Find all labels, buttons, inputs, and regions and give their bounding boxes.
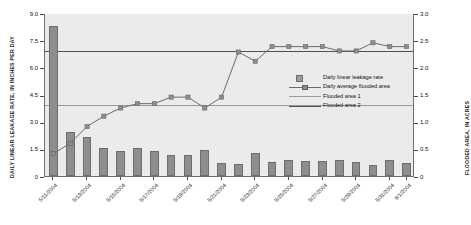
x-axis-tick-label: 5/27/2004 [298, 182, 328, 212]
x-axis-tick [389, 177, 390, 180]
left-axis-tick-label: 1.5 [16, 146, 38, 152]
x-axis-tick-label: 5/25/2004 [264, 182, 294, 212]
chart-figure: DAILY LINEAR LEAKAGE RATE, IN INCHES PER… [0, 0, 471, 225]
legend-item-leakage-rate: Daily linear leakage rate [287, 73, 412, 83]
x-axis-tick [120, 177, 121, 180]
x-axis-tick [288, 177, 289, 180]
legend-key-line-marker [287, 83, 323, 92]
data-point-marker [152, 102, 156, 106]
x-axis-tick [254, 177, 255, 180]
left-axis-tick-label: 3.0 [16, 119, 38, 125]
x-axis-tick-label: 5/13/2004 [63, 182, 93, 212]
left-axis-tick [40, 150, 44, 151]
legend-item-flooded-area-1: Flooded area 1 [287, 92, 412, 102]
x-axis-tick [221, 177, 222, 180]
left-axis-tick [40, 177, 44, 178]
legend-label-flooded-area: Daily average flooded area [323, 84, 390, 90]
chart-legend: Daily linear leakage rate Daily average … [287, 73, 412, 111]
x-axis-tick-label: 5/21/2004 [197, 182, 227, 212]
left-axis-tick [40, 96, 44, 97]
legend-label-flooded-area-2: Flooded area 2 [323, 103, 361, 109]
data-point-marker [320, 45, 324, 49]
x-axis-tick-label: 5/17/2004 [130, 182, 160, 212]
right-axis-tick [414, 68, 418, 69]
right-axis-tick-label: 2.0 [420, 65, 442, 71]
data-point-marker [287, 45, 291, 49]
left-axis-tick [40, 41, 44, 42]
left-axis-tick [40, 68, 44, 69]
x-axis-tick-label: 5/11/2004 [29, 182, 59, 212]
data-point-marker [388, 45, 392, 49]
legend-key-ref1 [287, 92, 323, 101]
data-point-marker [219, 95, 223, 99]
right-axis-tick [414, 177, 418, 178]
data-point-marker [85, 124, 89, 128]
x-axis-tick-label: 5/29/2004 [332, 182, 362, 212]
legend-label-flooded-area-1: Flooded area 1 [323, 94, 361, 100]
left-axis-tick-label: 9.0 [16, 11, 38, 17]
bar-swatch-icon [296, 75, 303, 82]
data-point-marker [304, 45, 308, 49]
right-axis-tick-label: 1.0 [420, 119, 442, 125]
right-axis-tick [414, 96, 418, 97]
left-axis-tick [40, 14, 44, 15]
data-point-marker [102, 114, 106, 118]
x-axis-tick [187, 177, 188, 180]
data-point-marker [51, 152, 55, 156]
x-axis-tick-label: 5/19/2004 [163, 182, 193, 212]
data-point-marker [186, 95, 190, 99]
legend-label-leakage-rate: Daily linear leakage rate [323, 75, 383, 81]
plot-inner: Daily linear leakage rate Daily average … [45, 14, 413, 176]
plot-area: Daily linear leakage rate Daily average … [44, 14, 414, 177]
legend-item-flooded-area: Daily average flooded area [287, 83, 412, 93]
reference-line-1-icon [289, 96, 321, 97]
x-axis-tick-label: 5/23/2004 [231, 182, 261, 212]
left-axis-tick [40, 123, 44, 124]
left-axis-title: DAILY LINEAR LEAKAGE RATE, IN INCHES PER… [9, 36, 15, 178]
right-axis-tick-label: 1.5 [420, 92, 442, 98]
right-axis-tick [414, 14, 418, 15]
right-axis-title: FLOODED AREA, IN ACRES [464, 101, 470, 175]
data-point-marker [270, 45, 274, 49]
left-axis-tick-label: 4.5 [16, 92, 38, 98]
reference-line-2-icon [289, 106, 321, 107]
legend-item-flooded-area-2: Flooded area 2 [287, 102, 412, 112]
x-axis-tick [86, 177, 87, 180]
data-point-marker [354, 49, 358, 53]
right-axis-tick-label: 3.0 [420, 11, 442, 17]
data-point-marker [337, 49, 341, 53]
right-axis-tick-label: 0.5 [420, 146, 442, 152]
x-axis-tick [322, 177, 323, 180]
data-point-marker [253, 59, 257, 63]
square-marker-icon [302, 85, 308, 91]
left-axis-tick-label: 7.5 [16, 38, 38, 44]
data-point-marker [371, 41, 375, 45]
left-axis-tick-label: 0 [16, 174, 38, 180]
right-axis-tick [414, 150, 418, 151]
x-axis-tick [153, 177, 154, 180]
x-axis-tick [355, 177, 356, 180]
data-point-marker [236, 50, 240, 54]
x-axis-tick [52, 177, 53, 180]
data-point-marker [68, 141, 72, 145]
legend-key-bar-swatch [287, 73, 323, 82]
left-axis-tick-label: 6.0 [16, 65, 38, 71]
right-axis-tick [414, 123, 418, 124]
data-point-marker [404, 45, 408, 49]
legend-key-ref2 [287, 102, 323, 111]
data-point-marker [135, 102, 139, 106]
data-point-marker [119, 106, 123, 110]
right-axis-tick-label: 2.5 [420, 38, 442, 44]
x-axis-tick [406, 177, 407, 180]
x-axis-tick-label: 5/15/2004 [96, 182, 126, 212]
data-point-marker [203, 106, 207, 110]
right-axis-tick-label: 0 [420, 174, 442, 180]
right-axis-tick [414, 41, 418, 42]
data-point-marker [169, 95, 173, 99]
